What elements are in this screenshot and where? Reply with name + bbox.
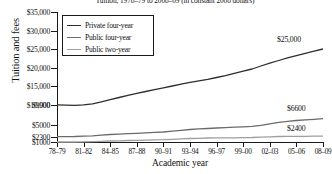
legend-item-public-four: Public four-year [67,31,149,43]
legend-swatch [67,49,81,50]
annotation-public-four: $6600 [287,104,306,113]
annotation-private: $25,000 [277,35,301,44]
line-0 [57,49,323,105]
chart-root: Tuition, 1978–79 to 2008–09 (in constant… [0,0,332,174]
legend-label: Private four-year [85,21,133,30]
legend-swatch [67,37,81,38]
legend-swatch [67,25,81,26]
legend-item-public-two: Public two-year [67,43,149,55]
legend-item-private: Private four-year [67,19,149,31]
line-1 [57,119,323,137]
series-lines [0,0,332,174]
line-2 [57,136,323,142]
legend: Private four-year Public four-year Publi… [62,15,154,56]
legend-label: Public two-year [85,45,130,54]
legend-label: Public four-year [85,33,131,42]
annotation-public-two: $2400 [287,124,306,133]
